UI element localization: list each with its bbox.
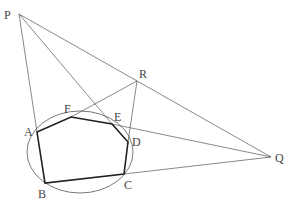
label-R: R — [139, 68, 147, 80]
line-RC — [128, 81, 137, 142]
label-C: C — [124, 179, 132, 191]
geometry-diagram: P R Q A F E D C B — [0, 0, 296, 206]
hexagon-AFEDCB — [37, 117, 128, 183]
label-Q: Q — [275, 152, 284, 164]
line-PQ — [19, 14, 271, 157]
line-QC — [124, 157, 271, 174]
label-P: P — [4, 9, 11, 21]
label-E: E — [114, 111, 121, 123]
label-D: D — [132, 136, 141, 148]
label-F: F — [64, 103, 71, 115]
label-A: A — [24, 126, 33, 138]
diagram-canvas — [0, 0, 296, 206]
line-RF — [71, 81, 137, 117]
label-B: B — [38, 188, 46, 200]
